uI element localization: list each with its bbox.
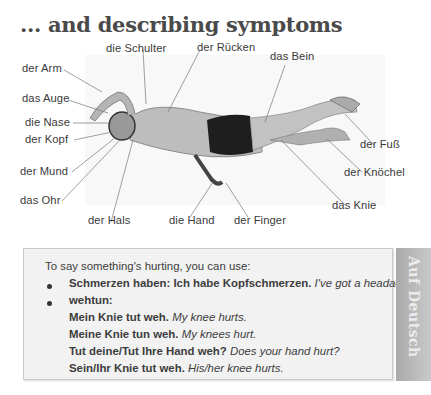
label-mouth: der Mund bbox=[20, 165, 68, 177]
label-finger: der Finger bbox=[234, 214, 286, 226]
body-parts-diagram: die Schulter der Rücken das Bein der Arm… bbox=[0, 40, 431, 240]
example-english: My knee hurts. bbox=[172, 311, 247, 323]
bullet2-german: wehtun: bbox=[69, 294, 113, 306]
example-row: Tut deine/Tut Ihre Hand weh? Does your h… bbox=[69, 345, 340, 357]
example-german: Tut deine/Tut Ihre Hand weh? bbox=[69, 345, 227, 357]
label-ear: das Ohr bbox=[20, 194, 61, 206]
bullet-icon bbox=[47, 301, 52, 306]
side-tab-auf-deutsch: Auf Deutsch bbox=[396, 248, 431, 381]
label-hand: die Hand bbox=[169, 214, 215, 226]
label-leg: das Bein bbox=[270, 50, 314, 62]
grammar-intro: To say something's hurting, you can use: bbox=[45, 260, 250, 272]
label-eye: das Auge bbox=[22, 92, 69, 104]
label-neck: der Hals bbox=[88, 214, 130, 226]
label-shoulder: die Schulter bbox=[106, 42, 166, 54]
example-english: His/her knee hurts. bbox=[188, 362, 284, 374]
example-english: Does your hand hurt? bbox=[230, 345, 340, 357]
bullet-schmerzen-haben: Schmerzen haben: Ich habe Kopfschmerzen.… bbox=[69, 277, 417, 289]
label-back: der Rücken bbox=[197, 41, 255, 53]
label-nose: die Nase bbox=[25, 116, 70, 128]
example-row: Meine Knie tun weh. My knees hurt. bbox=[69, 328, 256, 340]
grammar-box: To say something's hurting, you can use:… bbox=[23, 248, 393, 380]
label-knee: das Knie bbox=[332, 199, 376, 211]
example-german: Meine Knie tun weh. bbox=[69, 328, 179, 340]
bullet-wehtun: wehtun: bbox=[69, 294, 113, 306]
example-english: My knees hurt. bbox=[182, 328, 257, 340]
label-ankle: der Knöchel bbox=[344, 166, 405, 178]
side-tab-label: Auf Deutsch bbox=[406, 256, 422, 358]
example-row: Sein/Ihr Knie tut weh. His/her knee hurt… bbox=[69, 362, 284, 374]
example-german: Mein Knie tut weh. bbox=[69, 311, 169, 323]
label-foot: der Fuß bbox=[360, 138, 400, 150]
example-german: Sein/Ihr Knie tut weh. bbox=[69, 362, 185, 374]
bullet-icon bbox=[47, 284, 52, 289]
label-arm: der Arm bbox=[22, 62, 62, 74]
bullet1-german: Schmerzen haben: Ich habe Kopfschmerzen. bbox=[69, 277, 311, 289]
page-heading: ... and describing symptoms bbox=[20, 12, 342, 37]
label-head: der Kopf bbox=[25, 133, 68, 145]
example-row: Mein Knie tut weh. My knee hurts. bbox=[69, 311, 247, 323]
